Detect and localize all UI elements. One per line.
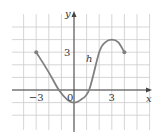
function-graph: y x h −3033 (0, 0, 161, 140)
x-tick-label: 0 (67, 92, 73, 103)
x-tick-label: 3 (109, 92, 115, 103)
axes (12, 11, 152, 132)
x-tick-label: −3 (29, 92, 44, 103)
x-axis-label: x (146, 93, 152, 104)
y-tick-label: 3 (64, 47, 70, 58)
y-axis-arrow-icon (72, 11, 77, 17)
grid (12, 14, 150, 130)
endpoint-dot (34, 50, 38, 54)
curve-label: h (86, 53, 92, 64)
x-axis-arrow-icon (146, 88, 152, 93)
endpoint-dot (122, 50, 126, 54)
tick-labels: −3033 (29, 47, 115, 103)
y-axis-label: y (64, 8, 71, 19)
